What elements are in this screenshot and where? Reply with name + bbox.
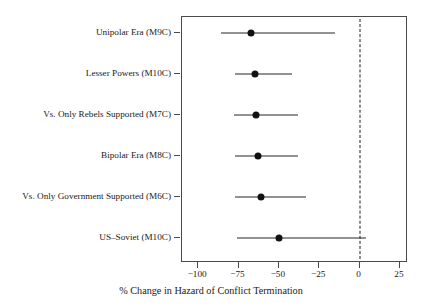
y-axis-category-label: Lesser Powers (M10C) (86, 68, 171, 78)
y-axis-category-label: Bipolar Era (M8C) (101, 150, 171, 160)
x-axis-tick (359, 262, 360, 268)
confidence-interval-line (235, 155, 298, 156)
x-axis-tick-label: −25 (311, 269, 325, 280)
coefficient-plot-figure: Unipolar Era (M9C)Lesser Powers (M10C)Vs… (0, 0, 422, 307)
y-axis-category-label: Unipolar Era (M9C) (96, 27, 171, 37)
y-axis-tick (174, 155, 180, 156)
confidence-interval-line (237, 237, 366, 238)
x-axis-tick (197, 262, 198, 268)
plot-area (182, 17, 406, 261)
x-axis-tick-label: −50 (271, 269, 285, 280)
confidence-interval-line (235, 196, 306, 197)
x-axis-tick (399, 262, 400, 268)
estimate-point-marker (275, 234, 282, 241)
estimate-point-marker (251, 70, 258, 77)
x-axis-tick-label: 25 (394, 269, 403, 280)
y-axis-tick (174, 73, 180, 74)
x-axis-tick (318, 262, 319, 268)
y-axis-category-label: Vs. Only Government Supported (M6C) (22, 191, 171, 201)
confidence-interval-line (234, 114, 299, 115)
estimate-point-marker (248, 29, 255, 36)
x-axis-title: % Change in Hazard of Conflict Terminati… (0, 285, 422, 296)
confidence-interval-line (235, 73, 292, 74)
y-axis-category-label: US–Soviet (M10C) (99, 232, 171, 242)
y-axis-labels: Unipolar Era (M9C)Lesser Powers (M10C)Vs… (0, 0, 177, 307)
y-axis-tick (174, 114, 180, 115)
confidence-interval-line (221, 32, 336, 33)
estimate-point-marker (253, 111, 260, 118)
x-axis-tick-label: 0 (356, 269, 361, 280)
estimate-point-marker (254, 152, 261, 159)
plot-frame (181, 16, 407, 262)
y-axis-category-label: Vs. Only Rebels Supported (M7C) (43, 109, 171, 119)
x-axis-tick-label: −75 (230, 269, 244, 280)
zero-reference-line (359, 19, 360, 259)
estimate-point-marker (258, 193, 265, 200)
x-axis-tick (278, 262, 279, 268)
y-axis-tick (174, 196, 180, 197)
y-axis-tick (174, 32, 180, 33)
y-axis-tick (174, 237, 180, 238)
x-axis-tick-label: −100 (188, 269, 207, 280)
x-axis-tick (238, 262, 239, 268)
